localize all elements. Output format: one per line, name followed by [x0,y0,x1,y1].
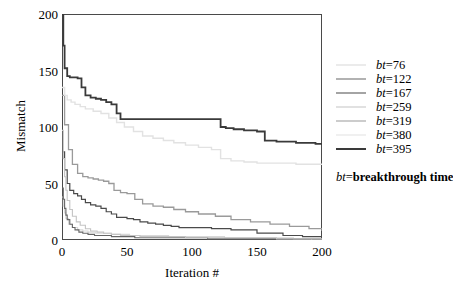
legend-label-prefix: bt [376,128,386,142]
legend-label-value: =319 [386,114,412,128]
legend-line-swatch [336,100,366,114]
legend-line-swatch [336,58,366,72]
legend-item: bt=395 [336,142,448,156]
legend-line [336,79,366,80]
legend-line [336,121,366,122]
legend-line [336,148,366,150]
legend-line [336,93,366,94]
legend-note-equals: = [346,170,353,184]
x-tick-label: 0 [42,245,82,258]
x-axis-label: Iteration # [62,266,322,280]
legend-line-swatch [336,128,366,142]
legend-line-swatch [336,86,366,100]
legend-label-value: =76 [386,58,406,72]
legend-line [336,65,366,66]
legend-label: bt=395 [366,142,412,156]
legend-item: bt=319 [336,114,448,128]
legend-item: bt=122 [336,72,448,86]
x-tick-label: 100 [172,245,212,258]
legend-label-prefix: bt [376,86,386,100]
legend-label-value: =167 [386,86,412,100]
legend-label-value: =380 [386,128,412,142]
x-axis-ticks: 050100150200 [0,245,450,263]
legend-label-value: =122 [386,72,412,86]
legend-note-prefix: bt [336,170,346,184]
series-line [62,152,322,238]
legend-label-prefix: bt [376,58,386,72]
series-line [62,130,322,238]
legend-label-prefix: bt [376,114,386,128]
y-tick-label: 200 [18,8,58,21]
legend-line-swatch [336,114,366,128]
legend-item: bt=259 [336,100,448,114]
y-tick-label: 50 [18,178,58,191]
legend-label: bt=319 [366,114,412,128]
legend: bt=76bt=122bt=167bt=259bt=319bt=380bt=39… [336,58,448,156]
legend-label-prefix: bt [376,100,386,114]
legend-label: bt=122 [366,72,412,86]
legend-note: bt=breakthrough time [336,170,450,184]
legend-label-value: =259 [386,100,412,114]
x-tick-label: 200 [302,245,342,258]
legend-line-swatch [336,142,366,156]
legend-item: bt=76 [336,58,448,72]
legend-item: bt=380 [336,128,448,142]
legend-label: bt=380 [366,128,412,142]
legend-label: bt=167 [366,86,412,100]
legend-label: bt=76 [366,58,405,72]
series-line [62,188,322,239]
chart-canvas [62,14,322,240]
x-tick-label: 50 [107,245,147,258]
legend-label: bt=259 [366,100,412,114]
legend-line [336,107,366,108]
legend-label-prefix: bt [376,142,386,156]
legend-item: bt=167 [336,86,448,100]
series-line [62,14,322,144]
y-axis-label: Mismatch [14,76,28,176]
legend-label-prefix: bt [376,72,386,86]
x-tick-label: 150 [237,245,277,258]
legend-line [336,135,366,136]
legend-label-value: =395 [386,142,412,156]
legend-note-text: breakthrough time [353,170,453,184]
legend-line-swatch [336,72,366,86]
